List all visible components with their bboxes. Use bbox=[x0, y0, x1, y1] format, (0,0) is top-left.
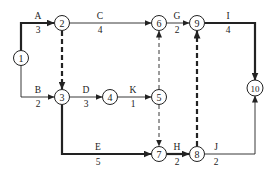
activity-e-label: E bbox=[95, 142, 101, 152]
node-10: 10 bbox=[247, 80, 263, 96]
svg-text:9: 9 bbox=[195, 18, 200, 29]
activity-e-duration: 5 bbox=[96, 157, 101, 167]
activity-j-duration: 2 bbox=[214, 157, 219, 167]
node-1: 1 bbox=[14, 51, 29, 66]
activity-a-duration: 3 bbox=[36, 25, 41, 35]
activity-a-label: A bbox=[35, 11, 42, 21]
activity-k-label: K bbox=[130, 85, 137, 95]
activity-k-duration: 1 bbox=[131, 99, 136, 109]
svg-text:2: 2 bbox=[60, 18, 65, 29]
activity-j-arrow bbox=[205, 96, 255, 154]
activity-g-label: G bbox=[174, 11, 181, 21]
node-4: 4 bbox=[103, 90, 118, 105]
activity-g-duration: 2 bbox=[175, 25, 180, 35]
activity-h-duration: 2 bbox=[175, 157, 180, 167]
node-7: 7 bbox=[152, 147, 167, 162]
svg-text:5: 5 bbox=[157, 92, 162, 103]
svg-text:4: 4 bbox=[108, 92, 113, 103]
activity-b-label: B bbox=[35, 85, 41, 95]
node-6: 6 bbox=[152, 16, 167, 31]
node-2: 2 bbox=[55, 16, 70, 31]
activity-h-label: H bbox=[174, 142, 181, 152]
node-9: 9 bbox=[190, 16, 205, 31]
node-3: 3 bbox=[55, 90, 70, 105]
svg-text:3: 3 bbox=[60, 92, 65, 103]
activity-d-label: D bbox=[83, 85, 90, 95]
activity-j-label: J bbox=[214, 142, 218, 152]
svg-text:1: 1 bbox=[19, 53, 24, 64]
activity-c-duration: 4 bbox=[98, 25, 103, 35]
activity-c-label: C bbox=[97, 11, 103, 21]
svg-text:10: 10 bbox=[251, 84, 261, 94]
node-8: 8 bbox=[190, 147, 205, 162]
activity-b-duration: 2 bbox=[36, 99, 41, 109]
network-diagram: A 3 B 2 C 4 D 3 K 1 E 5 G 2 H 2 I 4 J 2 … bbox=[0, 0, 274, 175]
activity-i-duration: 4 bbox=[226, 25, 231, 35]
activity-e-arrow bbox=[62, 105, 151, 154]
svg-text:7: 7 bbox=[157, 149, 162, 160]
activity-i-label: I bbox=[226, 11, 229, 21]
svg-text:8: 8 bbox=[195, 149, 200, 160]
svg-text:6: 6 bbox=[157, 18, 162, 29]
activity-d-duration: 3 bbox=[84, 99, 89, 109]
node-5: 5 bbox=[152, 90, 167, 105]
